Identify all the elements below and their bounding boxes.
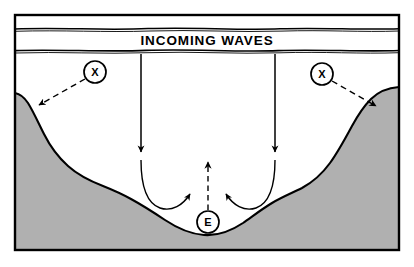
node-x-left-label: X: [91, 66, 99, 78]
node-e-center-label: E: [204, 216, 211, 228]
wave-crest-line-bottom: [15, 50, 399, 51]
incoming-waves-label: INCOMING WAVES: [140, 33, 273, 48]
diagram-canvas: INCOMING WAVES X X E: [0, 0, 414, 267]
node-e-center[interactable]: E: [197, 211, 219, 233]
node-x-right-label: X: [318, 68, 326, 80]
node-x-left[interactable]: X: [84, 61, 106, 83]
node-x-right[interactable]: X: [311, 63, 333, 85]
wave-crest-line-top: [15, 28, 399, 29]
diagram-root: INCOMING WAVES X X E: [0, 0, 414, 267]
